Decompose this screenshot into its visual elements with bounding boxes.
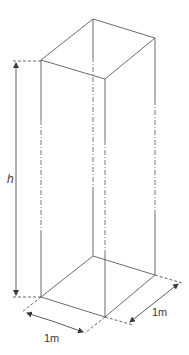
depth-dimension-line xyxy=(130,303,154,322)
bottom-edge-right-front xyxy=(105,275,155,317)
depth-extension-front xyxy=(105,317,133,325)
bottom-edge-front-left xyxy=(41,297,105,317)
top-face xyxy=(41,19,155,79)
bottom-edge-back-right xyxy=(93,256,155,275)
depth-extension-right xyxy=(155,275,182,283)
height-dimension: h xyxy=(7,61,41,297)
width-extension-right xyxy=(85,317,105,333)
top-edge-right-front xyxy=(105,38,155,79)
width-extension-left xyxy=(22,297,41,312)
height-label: h xyxy=(7,172,14,186)
top-edge-front-left xyxy=(41,60,105,79)
base-width-label: 1m xyxy=(44,332,59,344)
top-edge-back-right xyxy=(93,19,155,38)
top-edge-left-back xyxy=(41,19,93,60)
base-depth-label: 1m xyxy=(152,306,167,318)
width-dimension-line xyxy=(27,313,55,322)
bottom-face xyxy=(41,256,155,317)
base-depth-dimension: 1m xyxy=(105,275,182,325)
bottom-edge-left-back xyxy=(41,256,93,297)
column-diagram: h 1m 1m xyxy=(0,0,189,355)
